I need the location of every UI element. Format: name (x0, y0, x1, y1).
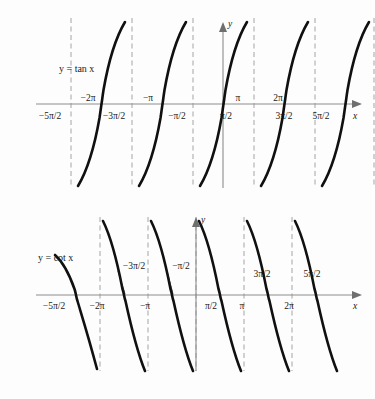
x-axis-arrow-icon (352, 291, 362, 299)
tangent-y-axis-label: y (227, 19, 233, 29)
tangent-ticks-above: −2π −π π 2π (81, 93, 283, 103)
cotangent-branch-3 (151, 221, 193, 371)
cotangent-ticks-above: −3π/2 −π/2 3π/2 5π/2 (123, 261, 321, 279)
cotangent-branch-5 (247, 221, 289, 371)
cotangent-branch-2 (103, 221, 145, 371)
tangent-graph-figure: y = tan x −5π/2 −3π/2 −π/2 π/2 3π/2 5π/2… (0, 0, 375, 200)
cotangent-graph-svg: y = cot x −5π/2 −2π −π π/2 π 2π −3π/2 −π… (0, 199, 375, 399)
tick-label-neg-2pi: −2π (81, 93, 96, 103)
tick-label-neg-5pi-over-2: −5π/2 (39, 111, 62, 121)
cotangent-branch-6 (295, 221, 337, 371)
tick-label-pi: π (236, 93, 241, 103)
tick-label-neg-pi: −π (140, 301, 150, 311)
cotangent-graph-figure: y = cot x −5π/2 −2π −π π/2 π 2π −3π/2 −π… (0, 199, 375, 399)
leader-line-neg-3pi-over-2 (118, 271, 125, 294)
cotangent-function-label: y = cot x (38, 252, 73, 263)
tick-label-neg-5pi-over-2: −5π/2 (43, 301, 66, 311)
cotangent-y-axis-label: y (200, 215, 206, 225)
tick-label-neg-pi: −π (143, 93, 153, 103)
cotangent-branch-4 (199, 221, 241, 371)
tangent-x-axis-label: x (352, 111, 358, 121)
cotangent-x-axis-label: x (352, 301, 358, 311)
tick-label-pi-over-2: π/2 (220, 111, 232, 121)
tick-label-neg-3pi-over-2: −3π/2 (103, 111, 126, 121)
cotangent-branch-1 (55, 255, 97, 369)
tangent-ticks-below: −5π/2 −3π/2 −π/2 π/2 3π/2 5π/2 (39, 111, 330, 121)
tick-label-2pi: 2π (273, 93, 283, 103)
tangent-function-label: y = tan x (59, 63, 94, 74)
tick-label-5pi-over-2: 5π/2 (313, 111, 330, 121)
tick-label-pi-over-2: π/2 (205, 301, 217, 311)
tick-label-neg-pi-over-2: −π/2 (168, 111, 186, 121)
tangent-graph-svg: y = tan x −5π/2 −3π/2 −π/2 π/2 3π/2 5π/2… (0, 0, 375, 200)
y-axis-arrow-icon (219, 22, 227, 32)
tick-label-neg-3pi-over-2: −3π/2 (123, 261, 146, 271)
tick-label-2pi: 2π (284, 301, 294, 311)
cotangent-y-axis (192, 217, 200, 371)
tick-label-neg-pi-over-2: −π/2 (172, 261, 190, 271)
tangent-asymptote-group (71, 18, 315, 188)
x-axis-arrow-icon (352, 100, 362, 108)
tick-label-neg-2pi: −2π (90, 301, 105, 311)
tick-label-5pi-over-2: 5π/2 (304, 269, 321, 279)
tick-label-pi: π (240, 301, 245, 311)
tick-label-3pi-over-2: 3π/2 (254, 269, 271, 279)
cotangent-x-axis (36, 291, 362, 299)
tick-label-3pi-over-2: 3π/2 (276, 111, 293, 121)
